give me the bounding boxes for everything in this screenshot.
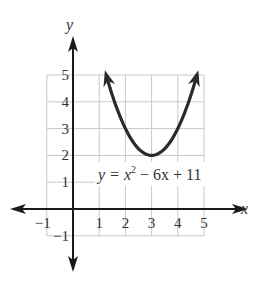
x-tick-label: 2 xyxy=(122,215,130,231)
x-tick-label: 1 xyxy=(95,215,103,231)
y-tick-label: 4 xyxy=(62,94,70,110)
svg-text:y = x2 − 6x + 11: y = x2 − 6x + 11 xyxy=(96,164,201,184)
y-tick-label: 2 xyxy=(62,147,70,163)
x-tick-label: 5 xyxy=(200,215,208,231)
equation-rhs: − 6x + 11 xyxy=(136,166,201,183)
x-tick-label: −1 xyxy=(35,215,51,231)
equation-label: y = x2 − 6x + 11 xyxy=(95,162,247,186)
equation-lhs: y = x xyxy=(96,166,131,184)
axes xyxy=(10,36,248,272)
parabola-graph: −112345−112345 x y y = x2 − 6x + 11 xyxy=(0,0,265,285)
y-axis-label: y xyxy=(64,16,74,34)
y-tick-label: −1 xyxy=(53,228,69,244)
y-tick-label: 5 xyxy=(62,67,70,83)
y-tick-label: 3 xyxy=(62,121,70,137)
x-axis-label: x xyxy=(240,200,248,217)
x-tick-label: 3 xyxy=(148,215,156,231)
x-tick-label: 4 xyxy=(174,215,182,231)
y-tick-label: 1 xyxy=(62,174,70,190)
grid xyxy=(47,75,204,236)
